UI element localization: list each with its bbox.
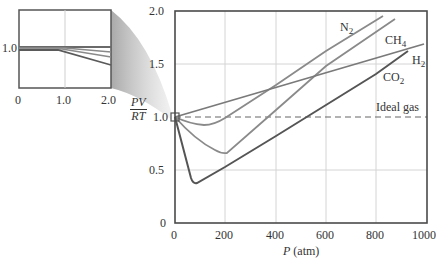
n2-label: N2 xyxy=(340,20,353,36)
x-tick-800: 800 xyxy=(366,228,384,242)
ideal-gas-label: Ideal gas xyxy=(376,100,419,114)
y-axis-label-numerator: PV xyxy=(130,96,147,110)
chart-canvas: 1.0 0 1.0 2.0 0 0.5 1.0 1.5 2.0 0 200 40… xyxy=(0,0,444,261)
y-tick-2.0: 2.0 xyxy=(149,4,164,18)
h2-label: H2 xyxy=(412,53,425,69)
x-tick-400: 400 xyxy=(266,228,284,242)
co2-label: CO2 xyxy=(383,70,404,86)
x-tick-200: 200 xyxy=(215,228,233,242)
x-tick-600: 600 xyxy=(316,228,334,242)
y-tick-1.5: 1.5 xyxy=(149,57,164,71)
ch4-line xyxy=(175,19,395,153)
x-tick-1000: 1000 xyxy=(412,228,436,242)
x-axis-label: P (atm) xyxy=(282,244,319,258)
y-tick-0: 0 xyxy=(160,216,166,230)
ch4-label: CH4 xyxy=(385,33,407,49)
y-tick-1.0: 1.0 xyxy=(153,110,168,124)
y-axis-label: PV RT xyxy=(130,96,147,123)
inset-x-tick-1: 1.0 xyxy=(56,93,71,107)
x-tick-0: 0 xyxy=(171,228,177,242)
y-tick-0.5: 0.5 xyxy=(149,163,164,177)
inset-plot: 1.0 0 1.0 2.0 xyxy=(2,10,116,107)
inset-x-tick-0: 0 xyxy=(15,93,21,107)
inset-y-tick: 1.0 xyxy=(2,41,17,55)
y-axis-label-denominator: RT xyxy=(131,109,145,123)
inset-x-tick-2: 2.0 xyxy=(101,93,116,107)
